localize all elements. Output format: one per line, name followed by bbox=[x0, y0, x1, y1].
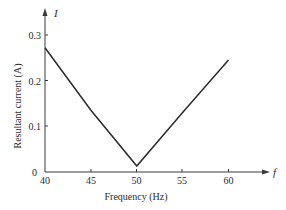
x-tick-label: 45 bbox=[86, 175, 96, 186]
y-tick-label: 0 bbox=[32, 167, 37, 178]
y-tick-label: 0.3 bbox=[29, 30, 42, 41]
x-tick-label: 55 bbox=[177, 175, 187, 186]
x-tick-label: 40 bbox=[40, 175, 50, 186]
y-axis-arrow-icon bbox=[43, 8, 48, 16]
x-axis-arrow-icon bbox=[262, 170, 270, 175]
x-axis-label: Frequency (Hz) bbox=[104, 191, 167, 203]
x-tick-label: 60 bbox=[224, 175, 234, 186]
x-tick-label: 50 bbox=[132, 175, 142, 186]
y-axis-symbol: I bbox=[53, 7, 59, 19]
resultant-current-line bbox=[45, 48, 229, 166]
resultant-current-chart: 0 0.1 0.2 0.3 40 45 50 55 60 I f Frequen… bbox=[0, 0, 286, 210]
y-tick-label: 0.2 bbox=[29, 76, 42, 87]
y-tick-label: 0.1 bbox=[29, 121, 42, 132]
y-axis-label: Resultant current (A) bbox=[12, 64, 24, 149]
x-axis-symbol: f bbox=[273, 166, 278, 178]
